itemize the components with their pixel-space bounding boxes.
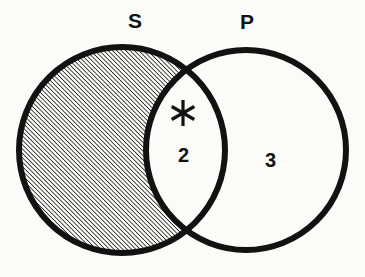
venn-diagram-figure: S P 2 3 — [0, 0, 365, 277]
set-label-p: P — [240, 11, 255, 32]
region-label-p-only: 3 — [265, 150, 276, 170]
region-label-intersection: 2 — [178, 145, 189, 165]
set-label-s: S — [128, 10, 143, 31]
venn-diagram-canvas — [0, 0, 365, 277]
